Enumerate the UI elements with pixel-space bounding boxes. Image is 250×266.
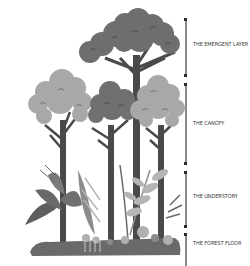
bracket-cap [184, 233, 187, 236]
understory-bracket [185, 171, 187, 228]
label-emergent-layer: THE EMERGENT LAYER [193, 41, 248, 47]
bracket-cap [184, 225, 187, 228]
bracket-cap [184, 18, 187, 21]
label-forest-floor: THE FOREST FLOOR [193, 240, 241, 246]
forest-illustration [0, 0, 250, 266]
emergent-layer-bracket [185, 18, 187, 77]
canopy-tree-middle [88, 81, 136, 245]
rainforest-layers-diagram: THE EMERGENT LAYER THE CANOPY THE UNDERS… [0, 0, 250, 266]
forest-floor [30, 226, 180, 256]
canopy-bracket [185, 83, 187, 165]
forest-floor-bracket [185, 233, 187, 266]
label-understory: THE UNDERSTORY [193, 193, 238, 199]
label-canopy: THE CANOPY [193, 120, 224, 126]
bracket-cap [184, 74, 187, 77]
bracket-cap [184, 162, 187, 165]
bracket-cap [184, 171, 187, 174]
bracket-cap [184, 83, 187, 86]
